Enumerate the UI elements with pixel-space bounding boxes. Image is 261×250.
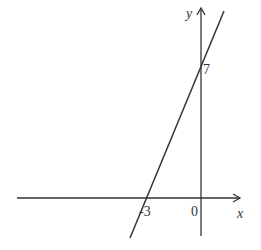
y-axis-label: y xyxy=(184,6,193,21)
x-intercept-label: -3 xyxy=(139,204,151,219)
y-intercept-label: 7 xyxy=(203,62,210,77)
graph-canvas: y x 0 7 -3 xyxy=(0,0,261,250)
origin-label: 0 xyxy=(191,204,198,219)
x-axis-label: x xyxy=(236,206,244,221)
